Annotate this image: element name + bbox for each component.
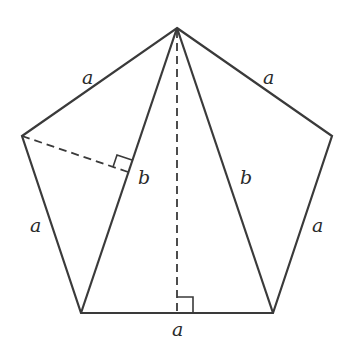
label-side-left: a [30, 214, 41, 236]
diagonal-right [177, 28, 273, 313]
label-side-top-left: a [82, 66, 93, 88]
label-diagonal-right: b [240, 166, 252, 188]
diagonal-left [81, 28, 177, 313]
right-angle-mark-left [113, 155, 132, 167]
right-angle-mark-bottom [177, 297, 193, 313]
dashed-perpendicular [22, 136, 128, 172]
label-diagonal-left: b [138, 166, 150, 188]
label-side-right: a [312, 214, 323, 236]
label-side-bottom: a [172, 318, 183, 340]
pentagon-diagram: a a a a a b b [0, 0, 354, 353]
label-side-top-right: a [263, 66, 274, 88]
